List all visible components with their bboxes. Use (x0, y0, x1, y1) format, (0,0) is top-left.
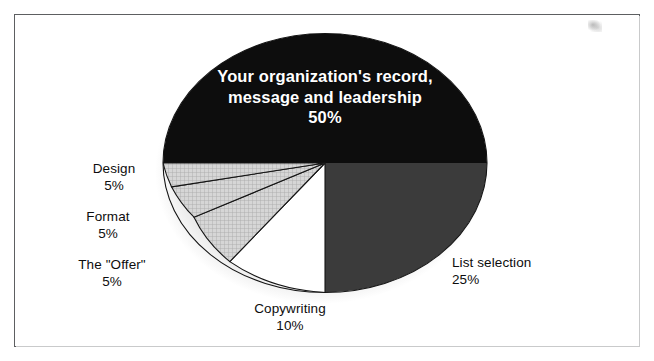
chart-page: Your organization's record, message and … (0, 0, 654, 361)
pie-label-offer-name: The "Offer" (78, 257, 145, 272)
pie-label-copywriting-name: Copywriting (254, 301, 326, 316)
pie-label-copywriting: Copywriting 10% (228, 300, 352, 334)
pie-label-organization-line1: Your organization's (217, 67, 371, 85)
pie-label-design-name: Design (93, 161, 136, 176)
pie-label-list-selection-name: List selection (452, 255, 531, 270)
pie-label-format-percent: 5% (66, 225, 150, 242)
pie-label-copywriting-percent: 10% (228, 317, 352, 334)
pie-label-format: Format 5% (66, 208, 150, 242)
pie-label-format-name: Format (86, 209, 129, 224)
pie-label-organization-line3: leadership (338, 88, 422, 106)
pie-label-design-percent: 5% (72, 177, 156, 194)
pie-label-offer: The "Offer" 5% (60, 256, 164, 290)
pie-label-design: Design 5% (72, 160, 156, 194)
pie-label-organization: Your organization's record, message and … (196, 66, 454, 128)
pie-label-offer-percent: 5% (60, 273, 164, 290)
pie-label-organization-percent: 50% (196, 107, 454, 128)
pie-label-list-selection-percent: 25% (452, 271, 592, 288)
pie-label-list-selection: List selection 25% (452, 254, 592, 288)
